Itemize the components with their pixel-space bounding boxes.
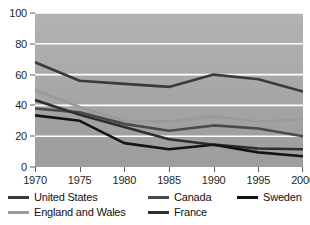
x-tick-label: 1970 [23, 174, 47, 186]
x-tick-mark [258, 167, 259, 172]
legend-swatch [148, 196, 169, 199]
x-tick-label: 1985 [157, 174, 181, 186]
legend-label: Canada [174, 191, 211, 204]
line-chart: 020406080100 197019751980198519901995200… [0, 0, 310, 225]
x-tick-label: 1980 [112, 174, 136, 186]
series-line [35, 100, 303, 149]
x-tick-mark [169, 167, 170, 172]
y-tick-label: 40 [15, 99, 27, 111]
y-tick-label: 100 [9, 7, 27, 19]
x-tick-mark [80, 167, 81, 172]
x-tick-label: 1990 [202, 174, 226, 186]
y-tick-label: 80 [15, 38, 27, 50]
x-tick-mark [124, 167, 125, 172]
legend-item[interactable]: Sweden [237, 191, 302, 204]
legend-label: England and Wales [34, 206, 126, 219]
legend-label: France [174, 206, 207, 219]
legend-swatch [237, 196, 258, 199]
legend-label: United States [34, 191, 97, 204]
legend-label: Sweden [263, 191, 302, 204]
y-tick-label: 60 [15, 69, 27, 81]
y-tick-label: 20 [15, 130, 27, 142]
x-tick-mark [35, 167, 36, 172]
x-tick-label: 1975 [68, 174, 92, 186]
x-tick-label: 2000 [291, 174, 310, 186]
legend-item[interactable]: France [148, 206, 207, 219]
legend-swatch [8, 196, 29, 199]
x-tick-label: 1995 [246, 174, 270, 186]
plot-area [35, 13, 303, 167]
legend-item[interactable]: Canada [148, 191, 211, 204]
x-axis: 1970197519801985199019952000 [35, 167, 303, 189]
legend-item[interactable]: United States [8, 191, 97, 204]
y-tick-label: 0 [21, 161, 27, 173]
legend-swatch [148, 211, 169, 214]
chart-legend: United StatesCanadaSweden England and Wa… [8, 191, 306, 221]
legend-swatch [8, 211, 29, 214]
legend-item[interactable]: England and Wales [8, 206, 126, 219]
legend-row: United StatesCanadaSweden [8, 191, 306, 206]
plot-canvas [35, 13, 303, 167]
legend-row: England and WalesFrance [8, 206, 306, 221]
x-tick-mark [302, 167, 303, 172]
y-axis: 020406080100 [0, 13, 35, 167]
series-line [35, 62, 303, 91]
x-tick-mark [214, 167, 215, 172]
